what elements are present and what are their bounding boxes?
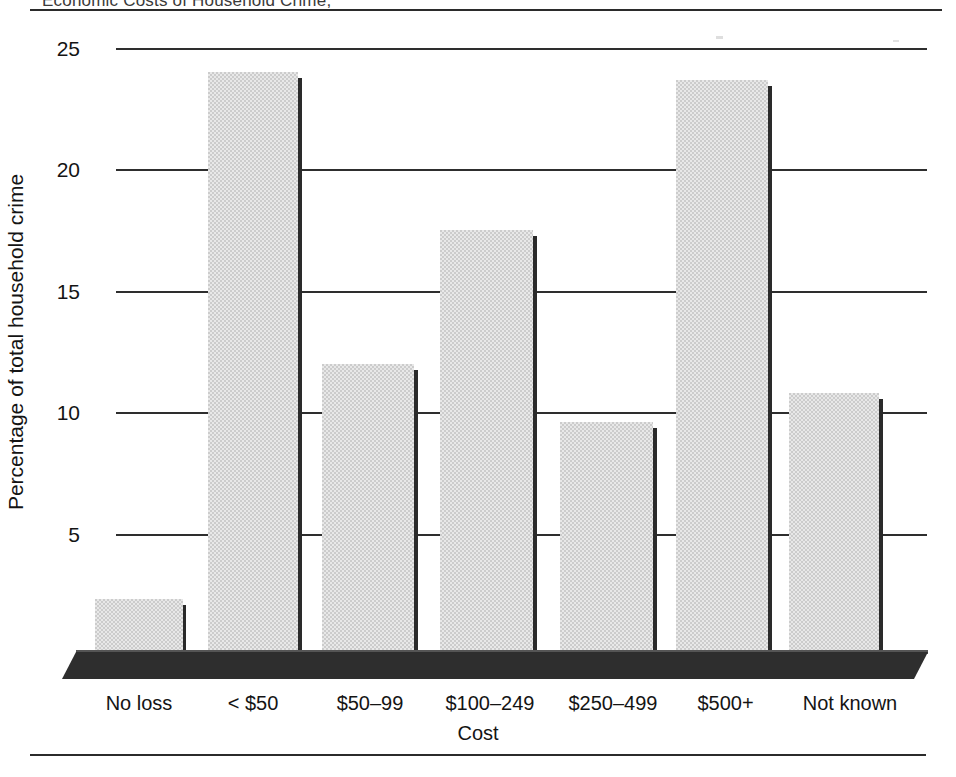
bar-500-plus (676, 80, 768, 655)
xtick-label-50-99: $50–99 (310, 692, 430, 714)
xtick-label-250-499: $250–499 (548, 692, 678, 714)
scan-speck (716, 36, 723, 39)
bar-100-249 (440, 230, 533, 655)
bar-250-499 (560, 422, 653, 655)
bottom-rule (30, 754, 926, 756)
xtick-label-not-known: Not known (780, 692, 920, 714)
xtick-label-100-249: $100–249 (425, 692, 555, 714)
bar-not-known (789, 393, 879, 655)
xtick-label-no-loss: No loss (79, 692, 199, 714)
xtick-label-500-plus: $500+ (668, 692, 783, 714)
bars-layer (0, 0, 956, 655)
xtick-label-lt-50: < $50 (198, 692, 308, 714)
scan-speck (893, 40, 899, 42)
baseline-plinth (62, 652, 928, 679)
figure-container: Economic Costs of Household Crime, 25 20… (0, 0, 956, 777)
bar-lt-50 (208, 72, 298, 655)
bar-no-loss (95, 599, 183, 655)
plot-area: 25 20 15 10 5 Percentage of total househ… (0, 0, 956, 700)
bar-50-99 (322, 364, 414, 655)
x-axis-title: Cost (0, 722, 956, 745)
